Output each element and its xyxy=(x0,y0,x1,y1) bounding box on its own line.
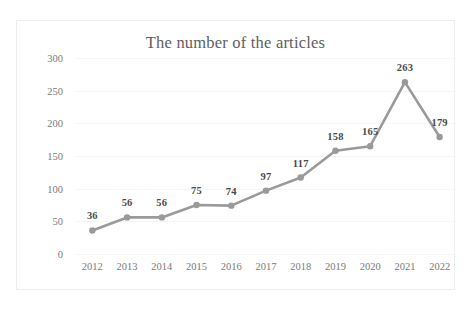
x-axis-tick-label: 2012 xyxy=(82,261,103,272)
data-point-marker xyxy=(159,214,165,220)
data-point-label: 36 xyxy=(87,210,98,221)
data-point-label: 56 xyxy=(156,197,167,208)
x-axis-tick-label: 2015 xyxy=(186,261,207,272)
series-polyline xyxy=(92,82,439,230)
chart-title: The number of the articles xyxy=(17,33,454,53)
x-axis-tick-label: 2017 xyxy=(256,261,277,272)
data-point-marker xyxy=(89,227,95,233)
x-axis-tick-label: 2019 xyxy=(325,261,346,272)
data-point-marker xyxy=(436,134,442,140)
x-axis-tick-label: 2020 xyxy=(360,261,381,272)
y-axis-tick-label: 200 xyxy=(47,118,63,129)
x-axis-tick-label: 2014 xyxy=(151,261,172,272)
x-axis-tick-label: 2018 xyxy=(290,261,311,272)
y-axis-tick-label: 100 xyxy=(47,183,63,194)
data-point-label: 117 xyxy=(293,158,309,169)
data-point-label: 263 xyxy=(397,62,413,73)
data-point-label: 97 xyxy=(261,171,272,182)
data-point-label: 56 xyxy=(122,197,133,208)
data-point-marker xyxy=(228,202,234,208)
data-point-marker xyxy=(124,214,130,220)
data-point-label: 158 xyxy=(327,131,343,142)
data-point-marker xyxy=(402,79,408,85)
data-point-marker xyxy=(298,174,304,180)
y-axis: 050100150200250300 xyxy=(17,58,69,254)
x-axis-tick-label: 2021 xyxy=(394,261,415,272)
y-axis-tick-label: 150 xyxy=(47,151,63,162)
x-axis-tick-label: 2016 xyxy=(221,261,242,272)
x-axis: 2012201320142015201620172018201920202021… xyxy=(75,261,457,279)
y-axis-tick-label: 250 xyxy=(47,85,63,96)
data-point-label: 75 xyxy=(191,185,202,196)
data-point-label: 74 xyxy=(226,186,237,197)
y-axis-tick-label: 300 xyxy=(47,53,63,64)
y-axis-tick-label: 50 xyxy=(53,216,64,227)
data-point-marker xyxy=(263,187,269,193)
data-point-marker xyxy=(367,143,373,149)
chart-frame: The number of the articles 0501001502002… xyxy=(16,20,455,290)
data-point-label: 165 xyxy=(362,126,378,137)
data-point-label: 179 xyxy=(431,117,447,128)
series-markers xyxy=(89,79,443,234)
x-axis-tick-label: 2022 xyxy=(429,261,450,272)
data-point-marker xyxy=(193,202,199,208)
y-axis-tick-label: 0 xyxy=(58,249,63,260)
plot-area: 365656757497117158165263179 xyxy=(75,58,457,254)
line-series xyxy=(75,58,457,254)
x-axis-tick-label: 2013 xyxy=(117,261,138,272)
gridline xyxy=(75,254,457,255)
data-point-marker xyxy=(332,148,338,154)
